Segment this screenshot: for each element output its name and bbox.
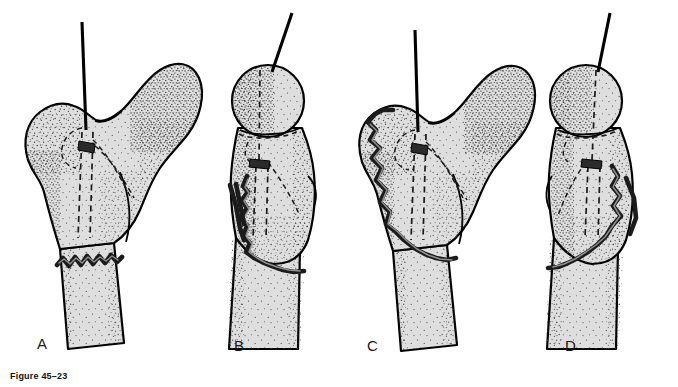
panel-d-label: D: [565, 337, 576, 354]
panel-d-nail-entry-marker: [581, 159, 602, 169]
panel-a-label: A: [37, 335, 47, 352]
figure-illustration: A: [0, 0, 678, 387]
panel-b-label: B: [234, 337, 244, 354]
panel-b-canal-dash-left: [259, 70, 260, 160]
figure-caption: Figure 45–23: [10, 371, 67, 381]
panel-b-nail-entry-marker: [249, 159, 270, 169]
panel-c-label: C: [367, 337, 378, 354]
femur-fracture-figure: A: [0, 0, 678, 387]
